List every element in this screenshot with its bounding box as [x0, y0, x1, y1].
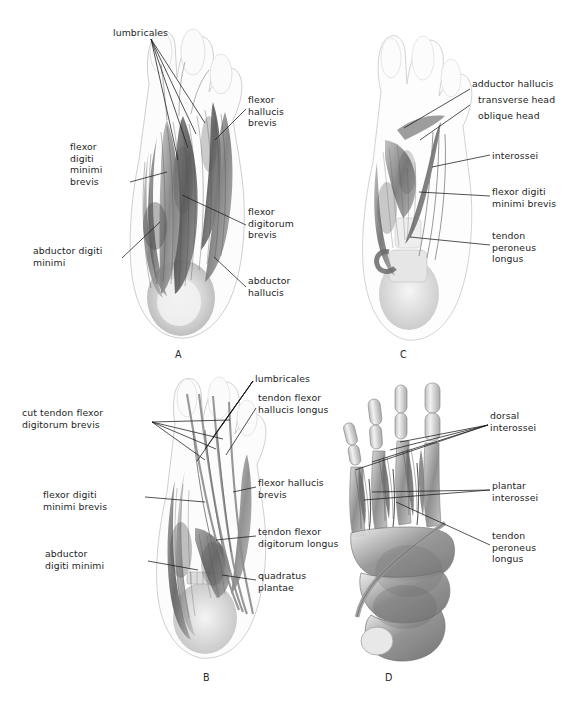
leader-group-a — [122, 39, 246, 287]
leader-group-b — [145, 381, 256, 580]
label-b-lumbricales: lumbricales — [255, 373, 310, 385]
label-a-flexor-digiti-minimi-brevis: flexor digiti minimi brevis — [70, 141, 102, 187]
label-c-oblique-head: oblique head — [478, 110, 540, 122]
label-a-flexor-hallucis-brevis: flexor hallucis brevis — [248, 94, 284, 129]
label-c-adductor-hallucis: adductor hallucis — [472, 78, 554, 90]
label-c-transverse-head: transverse head — [478, 94, 555, 106]
panel-b-illustration — [135, 372, 285, 662]
label-b-quadratus-plantae: quadratus plantae — [258, 570, 306, 593]
label-b-cut-tendon-flexor-digitorum-brevis: cut tendon flexor digitorum brevis — [22, 407, 103, 430]
label-c-flexor-digiti-minimi-brevis: flexor digiti minimi brevis — [492, 186, 556, 209]
label-d-plantar-interossei: plantar interossei — [492, 480, 538, 503]
panel-letter-b: B — [203, 672, 210, 683]
label-a-lumbricales: lumbricales — [113, 27, 168, 39]
label-d-dorsal-interossei: dorsal interossei — [490, 410, 536, 433]
panel-d-illustration — [325, 375, 485, 665]
label-b-flexor-digiti-minimi-brevis: flexor digiti minimi brevis — [43, 489, 107, 512]
panel-a-illustration — [105, 20, 265, 350]
label-b-tendon-flexor-hallucis-longus: tendon flexor hallucis longus — [258, 392, 328, 415]
label-a-abductor-digiti-minimi: abductor digiti minimi — [33, 245, 102, 268]
label-d-tendon-peroneus-longus: tendon peroneus longus — [492, 530, 536, 565]
leader-lines — [0, 0, 578, 714]
label-b-abductor-digiti-minimi: abductor digiti minimi — [45, 548, 104, 571]
label-c-tendon-peroneus-longus: tendon peroneus longus — [492, 230, 536, 265]
figure-canvas: lumbricalesflexor hallucis brevisflexor … — [0, 0, 578, 714]
label-b-flexor-hallucis-brevis: flexor hallucis brevis — [258, 477, 324, 500]
panel-letter-a: A — [175, 349, 182, 360]
label-a-abductor-hallucis: abductor hallucis — [248, 275, 290, 298]
label-b-tendon-flexor-digitorum-longus: tendon flexor digitorum longus — [258, 526, 338, 549]
panel-letter-d: D — [385, 672, 393, 683]
panel-letter-c: C — [400, 349, 407, 360]
label-a-flexor-digitorum-brevis: flexor digitorum brevis — [248, 206, 294, 241]
label-c-interossei: interossei — [492, 150, 538, 162]
leader-group-d — [355, 425, 490, 545]
panel-c-illustration — [345, 22, 490, 350]
